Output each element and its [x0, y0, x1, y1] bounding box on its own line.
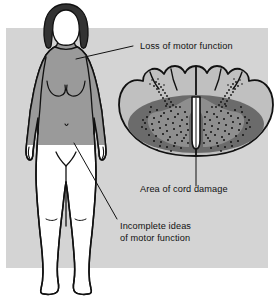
- figure-canvas: Loss of motor function Area of cord dama…: [0, 0, 280, 307]
- label-incomplete-ideas-line2: of motor function: [120, 233, 190, 243]
- label-area-of-cord-damage: Area of cord damage: [140, 184, 228, 194]
- spinal-cord-injury-figure: Loss of motor function Area of cord dama…: [0, 0, 280, 307]
- label-incomplete-ideas-line1: Incomplete ideas: [120, 221, 191, 231]
- face: [53, 10, 80, 45]
- label-loss-of-motor-function: Loss of motor function: [140, 41, 233, 51]
